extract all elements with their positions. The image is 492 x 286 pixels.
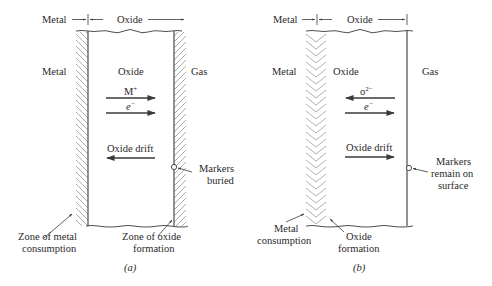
zone-oxide-label-line2: formation [338,243,380,254]
region-metal-label: Metal [272,66,297,77]
zone-metal-label-line2: consumption [22,243,77,254]
header-oxide-label: Oxide [117,14,143,25]
header-metal-label: Metal [273,14,298,25]
flux-oxygen-ion-label: o2− [360,85,373,97]
flux-electron-label: e− [364,100,374,112]
caption-b: (b) [353,262,366,274]
panel-a: Metal Oxide Metal Oxide Gas M+ e− Oxide … [18,14,235,274]
oxide-drift-label: Oxide drift [107,143,153,154]
region-oxide-label: Oxide [118,66,144,77]
markers-label-line3: surface [438,180,469,191]
region-gas-label: Gas [422,66,438,77]
break-line-bottom-b [306,226,413,228]
zone-oxide-label-line2: formation [133,243,175,254]
markers-label-line2: remain on [431,168,474,179]
region-oxide-label: Oxide [333,66,359,77]
zone-metal-label-line1: Metal [274,223,299,234]
break-line-top-a [76,30,182,33]
marker-circle-b [406,165,411,170]
flux-electron-label: e− [126,100,136,112]
markers-label-line1: Markers [436,156,471,167]
metal-consumption-zone-a [76,32,88,226]
header-dimension-a: Metal Oxide [42,14,184,25]
oxide-formation-zone-a [174,32,186,226]
zone-oxide-pointer-b [330,219,344,232]
markers-label-line2: buried [207,175,235,186]
caption-a: (a) [124,262,137,274]
header-oxide-label: Oxide [347,14,373,25]
flux-m-plus-label: M+ [124,85,137,97]
zone-metal-label-line1: Zone of metal [18,231,77,242]
header-dimension-b: Metal Oxide [273,14,407,25]
zone-metal-pointer-b [286,214,304,222]
markers-label-line1: Markers [199,163,234,174]
region-metal-label: Metal [42,66,67,77]
chevron-reaction-zone-b [306,34,326,224]
marker-circle-a [171,164,176,169]
oxidation-diagram: Metal Oxide Metal Oxide Gas M+ e− Oxide … [0,0,492,286]
panel-b: Metal Oxide Metal Oxide Gas o2− e− Oxide… [257,14,474,274]
region-gas-label: Gas [191,66,207,77]
break-line-top-b [306,30,413,33]
zone-metal-label-line2: consumption [257,235,312,246]
marker-pointer-b [413,169,428,173]
zone-oxide-label-line1: Oxide [346,231,372,242]
break-line-bottom-a [86,226,188,228]
oxide-drift-label: Oxide drift [346,142,392,153]
zone-oxide-label-line1: Zone of oxide [122,231,181,242]
header-metal-label: Metal [42,14,67,25]
